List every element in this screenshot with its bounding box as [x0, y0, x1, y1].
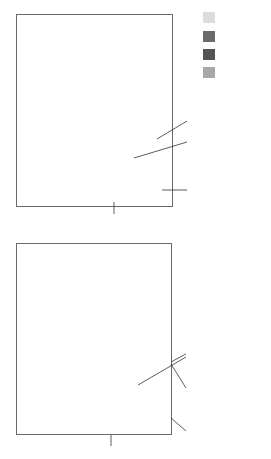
- legend-item-yarn-d: [203, 67, 229, 78]
- legend-item-yarn-c: [202, 280, 228, 291]
- swatch-yarn-b: [203, 31, 215, 42]
- legend-item-yarn-c: [203, 49, 229, 60]
- symbol-chart-grid: [16, 243, 172, 435]
- symbol-arrow-icon: [202, 280, 214, 291]
- swatch-yarn-a: [203, 12, 215, 23]
- symbol-vertical-bars-icon: [202, 243, 214, 254]
- legend-item-yarn-a: [203, 12, 229, 23]
- legend-item-yarn-a: [202, 243, 228, 254]
- color-chart-grid: [16, 14, 173, 207]
- symbol-dots-icon: [202, 262, 214, 273]
- legend-item-yarn-b: [203, 31, 229, 42]
- legend-item-yarn-d: [202, 298, 228, 309]
- legend-item-yarn-b: [202, 262, 228, 273]
- symbol-v-icon: [202, 298, 214, 309]
- swatch-yarn-d: [203, 67, 215, 78]
- swatch-yarn-c: [203, 49, 215, 60]
